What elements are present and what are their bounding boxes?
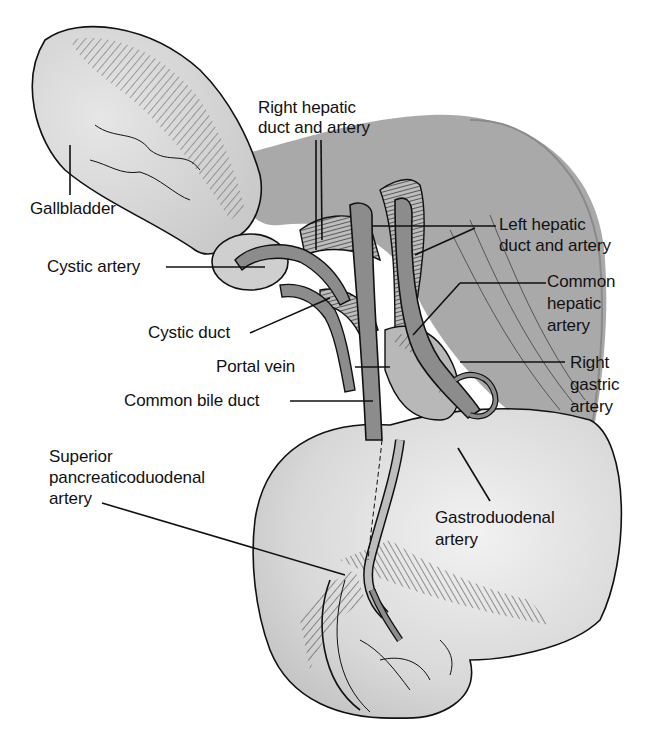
label-right-hepatic-line1: Right hepatic xyxy=(258,98,356,118)
label-left-hepatic-line1: Left hepatic xyxy=(499,215,586,235)
label-gallbladder: Gallbladder xyxy=(30,199,116,219)
label-common-hepatic-line2: hepatic xyxy=(547,294,601,314)
label-gastroduodenal-line1: Gastroduodenal xyxy=(435,508,555,528)
label-left-hepatic-line2: duct and artery xyxy=(499,236,611,256)
label-right-gastric-line1: Right xyxy=(570,353,609,373)
label-common-hepatic-line3: artery xyxy=(547,316,590,336)
label-superior-pd-line1: Superior xyxy=(49,447,112,467)
label-common-hepatic-line1: Common xyxy=(547,272,615,292)
label-superior-pd-line3: artery xyxy=(49,489,92,509)
label-gastroduodenal-line2: artery xyxy=(435,530,478,550)
label-portal-vein: Portal vein xyxy=(216,357,295,377)
label-common-bile-duct: Common bile duct xyxy=(124,391,259,411)
label-right-gastric-line2: gastric xyxy=(570,375,619,395)
label-right-hepatic-line2: duct and artery xyxy=(258,118,370,138)
label-superior-pd-line2: pancreaticoduodenal xyxy=(49,468,205,488)
label-cystic-duct: Cystic duct xyxy=(148,323,230,343)
label-right-gastric-line3: artery xyxy=(570,397,613,417)
label-cystic-artery: Cystic artery xyxy=(47,257,140,277)
